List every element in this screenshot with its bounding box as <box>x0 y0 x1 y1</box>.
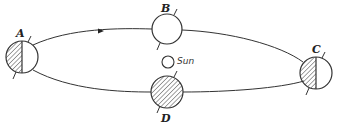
sun-label: Sun <box>177 56 194 66</box>
axis-tick <box>13 72 16 79</box>
position-label-b: B <box>160 2 170 15</box>
axis-tick <box>322 52 325 58</box>
planet-position-a: A <box>6 27 38 79</box>
sun-icon <box>162 56 174 68</box>
planet-position-d: D <box>151 71 183 125</box>
axis-tick <box>174 71 177 77</box>
planet-position-b: B <box>152 2 182 50</box>
planet-position-c: C <box>300 43 332 95</box>
axis-tick <box>306 88 309 95</box>
axis-tick <box>28 36 31 42</box>
orbit-diagram: A B Sun D C <box>0 0 338 125</box>
sun: Sun <box>162 56 194 68</box>
position-label-c: C <box>312 43 321 56</box>
axis-tick <box>157 43 160 50</box>
axis-tick <box>157 106 160 113</box>
position-label-a: A <box>15 27 25 40</box>
axis-tick <box>174 9 177 15</box>
position-label-d: D <box>160 112 171 125</box>
